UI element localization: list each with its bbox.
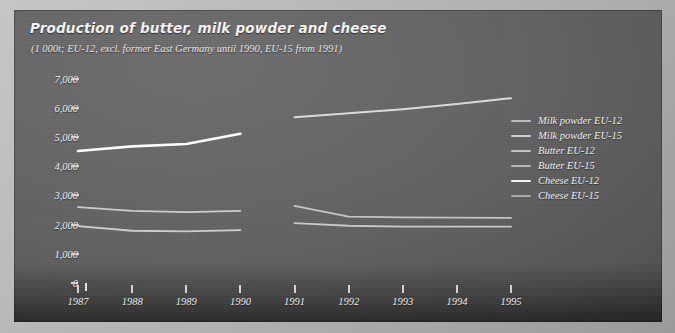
x-axis-tick-mark <box>348 285 350 293</box>
legend-item[interactable]: Butter EU-12 <box>511 144 622 158</box>
x-axis-tick-label: 1994 <box>446 296 467 307</box>
x-axis-tick-label: 1989 <box>176 296 197 307</box>
chart-panel: Production of butter, milk powder and ch… <box>14 10 662 322</box>
y-axis-tick-label: 1,000 <box>54 248 78 259</box>
legend-swatch-icon <box>511 180 531 182</box>
series-line <box>78 226 240 231</box>
legend-swatch-icon <box>511 135 531 137</box>
legend-swatch-icon <box>511 120 531 122</box>
legend-swatch-icon <box>511 150 531 152</box>
series-line <box>78 207 240 212</box>
series-line <box>295 223 512 227</box>
y-axis-tick-label: 3,000 <box>54 190 78 201</box>
x-axis-tick-mark <box>402 285 404 293</box>
x-axis-tick-mark <box>294 285 296 293</box>
legend-item-label: Milk powder EU-15 <box>538 130 622 141</box>
legend-swatch-icon <box>511 195 531 197</box>
legend-item[interactable]: Cheese EU-12 <box>511 174 622 188</box>
legend-item[interactable]: Milk powder EU-12 <box>511 114 622 128</box>
chart-legend: Milk powder EU-12Milk powder EU-15Butter… <box>511 114 622 204</box>
legend-item[interactable]: Butter EU-15 <box>511 159 622 173</box>
series-line <box>78 134 240 151</box>
y-axis-tick-label: 5,000 <box>54 132 78 143</box>
x-axis-tick-label: 1995 <box>501 296 522 307</box>
x-axis-tick-mark <box>510 285 512 293</box>
series-line <box>295 98 512 117</box>
y-axis-tick-label: 4,000 <box>54 161 78 172</box>
x-axis-tick-label: 1992 <box>338 296 359 307</box>
x-axis-tick-mark <box>131 285 133 293</box>
y-axis-tick-label: 2,000 <box>54 219 78 230</box>
chart-title: Production of butter, milk powder and ch… <box>30 20 387 36</box>
legend-item-label: Cheese EU-12 <box>538 175 599 186</box>
y-axis-tick-label: 7,000 <box>54 73 78 84</box>
legend-item[interactable]: Milk powder EU-15 <box>511 129 622 143</box>
series-line <box>295 206 512 218</box>
x-axis-tick-mark <box>239 285 241 293</box>
x-axis-tick-label: 1987 <box>68 296 89 307</box>
legend-item-label: Butter EU-12 <box>538 145 595 156</box>
legend-item-label: Milk powder EU-12 <box>538 115 622 126</box>
x-axis-tick-label: 1988 <box>122 296 143 307</box>
x-axis-tick-mark <box>185 285 187 293</box>
x-axis-tick-label: 1993 <box>392 296 413 307</box>
chart-page: Production of butter, milk powder and ch… <box>0 0 675 333</box>
x-axis-tick-label: 1991 <box>284 296 305 307</box>
x-axis-tick-mark <box>456 285 458 293</box>
y-axis-tick-label: 6,000 <box>54 102 78 113</box>
x-axis-tick-mark <box>77 285 79 293</box>
x-axis-tick-label: 1990 <box>230 296 251 307</box>
chart-subtitle: (1 000t; EU-12, excl. former East German… <box>31 43 342 54</box>
legend-item-label: Cheese EU-15 <box>538 190 599 201</box>
legend-item[interactable]: Cheese EU-15 <box>511 189 622 203</box>
legend-item-label: Butter EU-15 <box>538 160 595 171</box>
legend-swatch-icon <box>511 165 531 167</box>
